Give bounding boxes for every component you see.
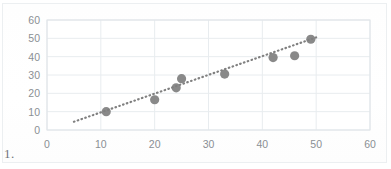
scatter-chart: 01020304050600102030405060: [0, 0, 391, 169]
data-point-2: [172, 83, 181, 92]
data-point-0: [102, 107, 111, 116]
x-axis-tick-label-20: 20: [149, 138, 161, 150]
data-point-1: [150, 95, 159, 104]
data-point-5: [269, 53, 278, 62]
data-point-6: [290, 51, 299, 60]
x-axis-tick-label-10: 10: [95, 138, 107, 150]
x-axis-tick-label-0: 0: [44, 138, 50, 150]
y-axis-tick-label-60: 60: [28, 14, 40, 26]
item-number-label: 1.: [4, 146, 15, 162]
y-axis-tick-label-10: 10: [28, 106, 40, 118]
figure-root: 01020304050600102030405060 1.: [0, 0, 391, 169]
y-axis-tick-label-50: 50: [28, 32, 40, 44]
x-axis-tick-label-60: 60: [364, 138, 376, 150]
y-axis-tick-label-30: 30: [28, 69, 40, 81]
data-point-7: [306, 35, 315, 44]
x-axis-tick-label-30: 30: [203, 138, 215, 150]
chart-canvas: 01020304050600102030405060: [0, 0, 391, 169]
x-axis-tick-label-40: 40: [256, 138, 268, 150]
y-axis-tick-label-0: 0: [34, 124, 40, 136]
y-axis-tick-label-40: 40: [28, 51, 40, 63]
data-point-4: [220, 69, 229, 78]
y-axis-tick-label-20: 20: [28, 87, 40, 99]
data-point-3: [177, 74, 186, 83]
x-axis-tick-label-50: 50: [310, 138, 322, 150]
